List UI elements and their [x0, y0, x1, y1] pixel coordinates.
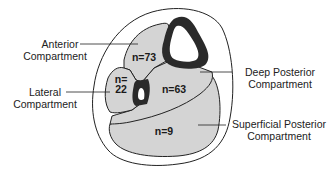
leg-compartment-diagram: Anterior Compartment Lateral Compartment… [0, 0, 332, 172]
lateral-count-line2: 22 [110, 84, 132, 94]
anterior-count: n=73 [124, 52, 164, 63]
anterior-label-line1: Anterior [20, 38, 90, 50]
lateral-label-line2: Compartment [12, 98, 78, 110]
anterior-compartment-label: Anterior Compartment [20, 38, 90, 62]
deep-posterior-compartment-label: Deep Posterior Compartment [232, 66, 328, 90]
deep-posterior-count: n=63 [154, 84, 194, 95]
lateral-compartment-label: Lateral Compartment [12, 86, 78, 110]
superficial-posterior-label-line1: Superficial Posterior [226, 118, 332, 130]
superficial-posterior-count: n=9 [146, 126, 182, 137]
lateral-label-line1: Lateral [12, 86, 78, 98]
deep-posterior-label-line2: Compartment [232, 78, 328, 90]
superficial-posterior-compartment-label: Superficial Posterior Compartment [226, 118, 332, 142]
anterior-label-line2: Compartment [20, 50, 90, 62]
lateral-count: n= 22 [110, 74, 132, 94]
superficial-posterior-label-line2: Compartment [226, 130, 332, 142]
deep-posterior-label-line1: Deep Posterior [232, 66, 328, 78]
